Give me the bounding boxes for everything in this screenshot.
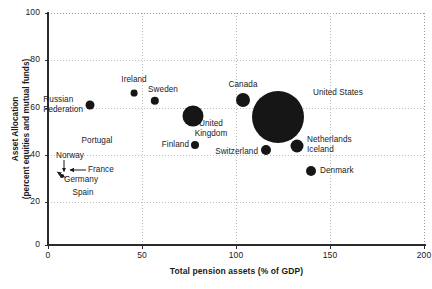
bubble-cluster-small[interactable]: [60, 174, 64, 178]
scatter-chart: 100 80 60 40 20 0 0 50 100 150 200 Asset…: [0, 0, 432, 289]
leader-lines-group: [0, 0, 432, 289]
